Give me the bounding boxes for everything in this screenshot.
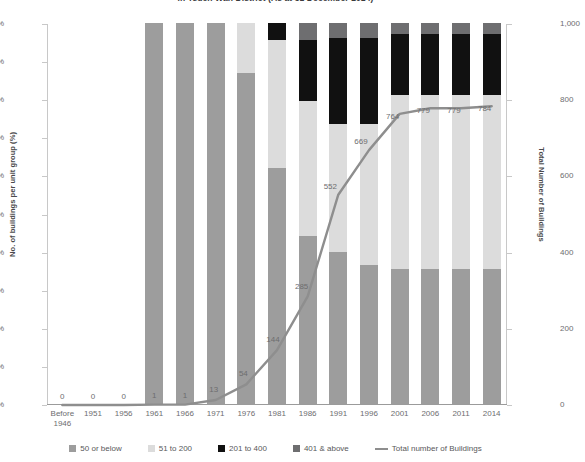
- x-tick-label: 2014: [469, 409, 515, 419]
- y-tick-right: [507, 405, 512, 406]
- legend-line-icon: [375, 448, 388, 450]
- y-tick-left: [42, 405, 47, 406]
- legend-item[interactable]: 201 to 400: [218, 444, 267, 453]
- line-point-label: 669: [344, 137, 378, 146]
- y-tick-label-left: 50%: [0, 210, 4, 219]
- line-point-label: 0: [107, 392, 141, 401]
- y-tick-label-left: 70%: [0, 133, 4, 142]
- y-tick-label-left: 100%: [0, 19, 4, 28]
- y-tick-right: [507, 24, 512, 25]
- y-tick-label-right: 200: [560, 324, 585, 333]
- legend-label: 401 & above: [304, 444, 349, 453]
- line-point-label: 779: [437, 106, 471, 115]
- y-tick-label-left: 80%: [0, 95, 4, 104]
- chart-title: in Tsuen Wan District (As at 31 December…: [0, 0, 551, 4]
- legend-label: 51 to 200: [159, 444, 192, 453]
- legend-swatch-icon: [69, 445, 76, 452]
- y-tick-label-right: 600: [560, 171, 585, 180]
- legend-label: 201 to 400: [229, 444, 267, 453]
- legend-item[interactable]: Total number of Buildings: [375, 444, 482, 453]
- legend-item[interactable]: 401 & above: [293, 444, 349, 453]
- legend-item[interactable]: 50 or below: [69, 444, 121, 453]
- line-point-label: 0: [76, 392, 110, 401]
- legend-swatch-icon: [293, 445, 300, 452]
- y-tick-label-left: 20%: [0, 324, 4, 333]
- y-tick-label-right: 0: [560, 400, 585, 409]
- y-tick-right: [507, 253, 512, 254]
- legend-swatch-icon: [218, 445, 225, 452]
- plot-area: 0%10%20%30%40%50%60%70%80%90%100% 020040…: [47, 24, 507, 405]
- y-tick-right: [507, 100, 512, 101]
- y-tick-right: [507, 176, 512, 177]
- legend-swatch-icon: [148, 445, 155, 452]
- total-buildings-line: [47, 24, 507, 405]
- line-point-label: 552: [313, 182, 347, 191]
- line-point-label: 779: [406, 106, 440, 115]
- y-tick-label-left: 90%: [0, 57, 4, 66]
- line-point-label: 144: [256, 335, 290, 344]
- y-tick-label-left: 10%: [0, 362, 4, 371]
- y-tick-label-right: 800: [560, 95, 585, 104]
- line-point-label: 764: [376, 112, 410, 121]
- y-tick-label-left: 60%: [0, 171, 4, 180]
- y-tick-label-left: 30%: [0, 286, 4, 295]
- y-tick-right: [507, 329, 512, 330]
- chart-legend: 50 or below51 to 200201 to 400401 & abov…: [0, 444, 551, 453]
- y-axis-right-title: Total Number of Buildings: [537, 125, 546, 265]
- line-point-label: 13: [197, 385, 231, 394]
- line-point-label: 1: [137, 391, 171, 400]
- y-tick-label-right: 400: [560, 248, 585, 257]
- line-point-label: 784: [468, 104, 502, 113]
- legend-item[interactable]: 51 to 200: [148, 444, 192, 453]
- line-point-label: 54: [226, 369, 260, 378]
- line-point-label: 285: [285, 282, 319, 291]
- line-point-label: 0: [45, 392, 79, 401]
- y-axis-left-title: No. of buildings per unit group (%): [8, 125, 17, 265]
- legend-label: 50 or below: [80, 444, 121, 453]
- y-tick-label-left: 0%: [0, 400, 4, 409]
- y-tick-label-right: 1,000: [560, 19, 585, 28]
- y-tick-label-left: 40%: [0, 248, 4, 257]
- legend-label: Total number of Buildings: [392, 444, 482, 453]
